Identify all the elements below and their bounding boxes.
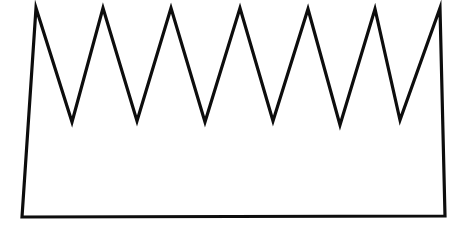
- crown-drawing: [0, 0, 464, 231]
- drawing-canvas: [0, 0, 464, 231]
